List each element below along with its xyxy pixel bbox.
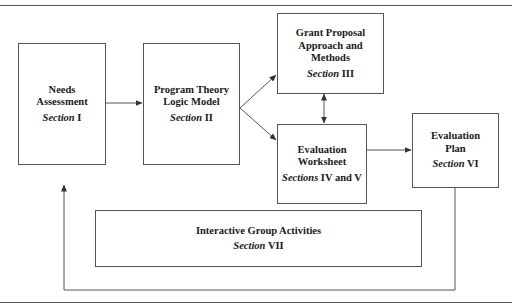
- section-label: Section VI: [432, 158, 478, 171]
- section-label: Sections IV and V: [282, 172, 362, 185]
- box-grant-proposal: Grant Proposal Approach and Methods Sect…: [277, 13, 384, 94]
- box-evaluation-plan: Evaluation Plan Section VI: [412, 113, 499, 188]
- title-line: Logic Model: [163, 96, 219, 109]
- title-line: Needs: [49, 84, 76, 97]
- title-line: Methods: [311, 52, 350, 65]
- title-line: Approach and: [298, 40, 362, 53]
- title-line: Assessment: [36, 96, 87, 109]
- box-interactive-group-activities: Interactive Group Activities Section VII: [95, 210, 422, 267]
- arrow-program-to-worksheet: [240, 108, 276, 140]
- title-line: Plan: [445, 143, 465, 156]
- title-line: Interactive Group Activities: [196, 225, 321, 238]
- title-line: Grant Proposal: [296, 27, 366, 40]
- box-evaluation-worksheet: Evaluation Worksheet Sections IV and V: [277, 124, 367, 204]
- box-needs-assessment: Needs Assessment Section I: [18, 43, 106, 165]
- arrow-program-to-grant: [240, 75, 276, 108]
- title-line: Evaluation: [297, 144, 346, 157]
- section-label: Section I: [43, 112, 82, 125]
- section-label: Section III: [307, 68, 354, 81]
- section-label: Section VII: [233, 240, 283, 253]
- title-line: Worksheet: [298, 156, 346, 169]
- section-label: Section II: [170, 112, 213, 125]
- title-line: Evaluation: [431, 130, 480, 143]
- title-line: Program Theory: [154, 84, 229, 97]
- box-program-theory: Program Theory Logic Model Section II: [143, 43, 240, 165]
